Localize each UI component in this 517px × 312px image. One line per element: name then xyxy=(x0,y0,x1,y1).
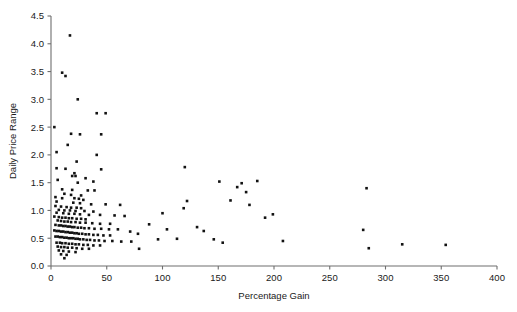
data-point xyxy=(54,224,57,227)
data-point xyxy=(176,237,179,240)
y-tick-label: 2.0 xyxy=(31,149,44,160)
data-point xyxy=(109,222,112,225)
data-point xyxy=(104,203,107,206)
data-point xyxy=(256,180,259,183)
data-point xyxy=(104,112,107,115)
y-tick-label: 1.0 xyxy=(31,205,44,216)
data-point xyxy=(62,225,65,228)
data-point xyxy=(63,220,66,223)
data-point xyxy=(79,133,82,136)
data-point xyxy=(89,239,92,242)
data-point xyxy=(64,242,67,245)
data-point xyxy=(81,247,84,250)
data-point xyxy=(73,212,76,215)
data-point xyxy=(76,98,79,101)
y-tick-label: 3.0 xyxy=(31,94,44,105)
data-point xyxy=(71,242,74,245)
data-point xyxy=(56,235,59,238)
data-point xyxy=(60,230,63,233)
data-point xyxy=(61,71,64,74)
x-tick-label: 150 xyxy=(210,272,226,283)
data-point xyxy=(99,244,102,247)
data-point xyxy=(66,246,69,249)
data-point xyxy=(218,180,221,183)
data-point xyxy=(73,172,76,175)
data-point xyxy=(54,235,57,238)
data-point xyxy=(367,247,370,250)
data-point xyxy=(76,181,79,184)
scatter-plot-figure: 0.00.51.01.52.02.53.03.54.04.5 050100150… xyxy=(0,0,517,312)
data-point xyxy=(87,189,90,192)
data-point xyxy=(82,244,85,247)
data-point xyxy=(75,232,78,235)
x-tick-label: 200 xyxy=(266,272,282,283)
data-point xyxy=(68,250,71,253)
data-point xyxy=(111,240,114,243)
y-tick-label: 4.5 xyxy=(31,10,44,21)
data-point xyxy=(65,254,68,257)
data-point xyxy=(62,230,65,233)
data-point xyxy=(98,239,101,242)
data-point xyxy=(64,75,67,78)
data-point xyxy=(70,206,73,209)
data-point xyxy=(70,132,73,135)
data-point xyxy=(93,239,96,242)
data-point xyxy=(117,228,120,231)
data-point xyxy=(87,244,90,247)
data-point xyxy=(71,189,74,192)
data-point xyxy=(74,175,77,178)
data-point xyxy=(76,237,79,240)
y-tick-label: 3.5 xyxy=(31,66,44,77)
data-point xyxy=(186,200,189,203)
y-axis-title: Daily Price Range xyxy=(7,103,18,179)
data-point xyxy=(59,241,62,244)
data-point xyxy=(71,231,74,234)
data-point xyxy=(93,189,96,192)
data-point xyxy=(79,238,82,241)
data-point xyxy=(92,180,95,183)
data-point xyxy=(68,237,71,240)
data-point xyxy=(182,207,185,210)
y-tick-label: 0.0 xyxy=(31,260,44,271)
data-point xyxy=(92,244,95,247)
x-tick-label: 100 xyxy=(155,272,171,283)
data-point xyxy=(69,225,72,228)
data-point xyxy=(60,224,63,227)
data-point xyxy=(73,226,76,229)
data-point xyxy=(74,221,77,224)
data-point xyxy=(72,237,75,240)
data-point xyxy=(138,247,141,250)
y-tick-label: 2.5 xyxy=(31,122,44,133)
data-point xyxy=(123,215,126,218)
data-point xyxy=(221,241,224,244)
data-point xyxy=(88,227,91,230)
data-point xyxy=(71,246,74,249)
data-point xyxy=(103,240,106,243)
data-point xyxy=(80,207,83,210)
data-point xyxy=(61,242,64,245)
data-point xyxy=(68,242,71,245)
data-point xyxy=(55,167,58,170)
data-point xyxy=(109,234,112,237)
data-point xyxy=(71,175,74,178)
data-point xyxy=(78,243,81,246)
y-tick-label: 4.0 xyxy=(31,38,44,49)
data-point xyxy=(70,237,73,240)
data-point xyxy=(97,234,100,237)
data-point xyxy=(55,200,58,203)
data-point xyxy=(64,225,67,228)
data-point xyxy=(75,217,78,220)
data-point xyxy=(362,229,365,232)
data-point xyxy=(100,227,103,230)
data-point xyxy=(62,212,65,215)
data-point xyxy=(66,225,69,228)
data-point xyxy=(75,160,78,163)
data-point xyxy=(79,213,82,216)
data-point xyxy=(68,217,71,220)
data-point xyxy=(74,237,77,240)
data-point xyxy=(74,210,77,213)
y-tick-label: 0.5 xyxy=(31,233,44,244)
data-point xyxy=(100,168,103,171)
data-point xyxy=(58,249,61,252)
data-point xyxy=(212,238,215,241)
